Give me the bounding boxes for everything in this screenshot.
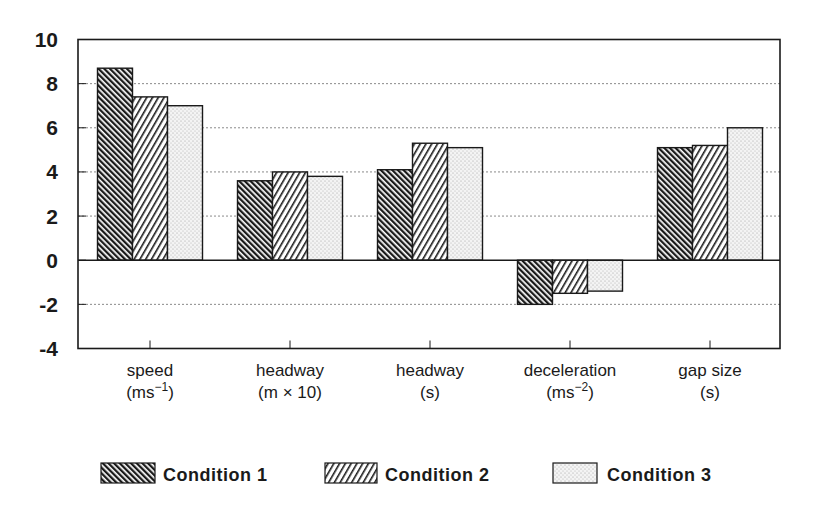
legend-item-3: Condition 3 bbox=[553, 463, 711, 485]
bar-2-1 bbox=[133, 97, 168, 260]
legend-swatch bbox=[325, 463, 377, 483]
y-tick-label: 8 bbox=[46, 72, 58, 95]
y-tick-label: 6 bbox=[46, 116, 58, 139]
bar-3-1 bbox=[168, 106, 203, 261]
category-label-line2: (s) bbox=[420, 383, 440, 402]
category-label-line1: gap size bbox=[678, 361, 741, 380]
bar-2-4 bbox=[553, 260, 588, 293]
y-tick-label: 10 bbox=[35, 28, 58, 51]
legend-item-2: Condition 2 bbox=[325, 463, 489, 485]
bar-1-1 bbox=[98, 68, 133, 260]
legend-label: Condition 1 bbox=[163, 465, 267, 485]
y-tick-label: 4 bbox=[46, 160, 58, 183]
category-label-line1: deceleration bbox=[524, 361, 617, 380]
y-tick-label: 2 bbox=[46, 205, 58, 228]
category-label-line1: speed bbox=[127, 361, 173, 380]
bar-2-5 bbox=[693, 145, 728, 260]
category-label-line1: headway bbox=[256, 361, 325, 380]
bar-3-4 bbox=[588, 260, 623, 291]
bar-2-3 bbox=[413, 143, 448, 260]
bar-1-3 bbox=[378, 170, 413, 260]
legend-label: Condition 2 bbox=[385, 465, 489, 485]
bar-1-5 bbox=[658, 148, 693, 261]
category-label-line2: (s) bbox=[700, 383, 720, 402]
legend-label: Condition 3 bbox=[607, 465, 711, 485]
category-label-line2: (ms−1) bbox=[126, 380, 174, 402]
legend-swatch bbox=[101, 463, 155, 483]
x-axis-category-labels: speed(ms−1)headway(m × 10)headway(s)dece… bbox=[126, 361, 742, 402]
chart-canvas: 1086420-2-4 speed(ms−1)headway(m × 10)he… bbox=[0, 0, 824, 521]
bar-1-4 bbox=[518, 260, 553, 304]
bar-3-3 bbox=[448, 148, 483, 261]
category-label-line1: headway bbox=[396, 361, 465, 380]
bar-2-2 bbox=[273, 172, 308, 260]
legend: Condition 1Condition 2Condition 3 bbox=[101, 463, 711, 485]
bar-3-2 bbox=[308, 176, 343, 260]
legend-swatch bbox=[553, 463, 597, 483]
y-axis-tick-labels: 1086420-2-4 bbox=[35, 28, 59, 360]
y-tick-label: 0 bbox=[46, 249, 58, 272]
bar-chart: 1086420-2-4 speed(ms−1)headway(m × 10)he… bbox=[0, 0, 824, 521]
y-tick-label: -2 bbox=[39, 293, 58, 316]
bar-1-2 bbox=[238, 181, 273, 260]
legend-item-1: Condition 1 bbox=[101, 463, 267, 485]
category-label-line2: (ms−2) bbox=[546, 380, 594, 402]
bar-3-5 bbox=[728, 128, 763, 260]
category-label-line2: (m × 10) bbox=[258, 383, 322, 402]
bars bbox=[98, 68, 763, 304]
y-tick-label: -4 bbox=[39, 337, 58, 360]
